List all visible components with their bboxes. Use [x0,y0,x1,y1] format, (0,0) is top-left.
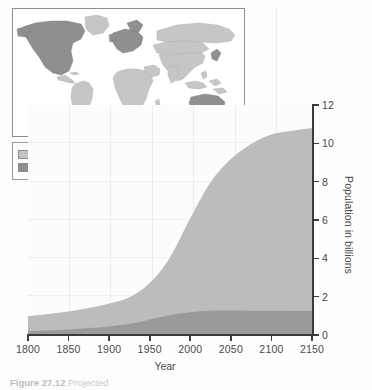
x-tick-mark [311,336,313,341]
x-tick-label: 1900 [97,343,121,355]
x-tick-label: 2050 [219,343,243,355]
y-tick-label: 8 [322,176,328,188]
y-tick-label: 12 [322,99,334,111]
x-tick-mark [108,336,110,341]
x-tick-mark [230,336,232,341]
x-tick-label: 2100 [259,343,283,355]
x-tick-label: 1850 [56,343,80,355]
figure-caption-text: Projected [68,377,108,388]
y-tick-mark [313,258,319,260]
y-tick-mark [313,104,319,106]
figure-caption: Figure 27.12 Projected [10,377,310,388]
y-tick-mark [313,296,319,298]
figure-number: Figure 27.12 [10,377,65,388]
y-tick-mark [313,219,319,221]
x-tick-label: 1800 [16,343,40,355]
x-tick-label: 2150 [300,343,324,355]
y-tick-label: 10 [322,137,334,149]
y-tick-mark [313,181,319,183]
x-tick-mark [189,336,191,341]
y-tick-mark [313,334,319,336]
y-tick-label: 2 [322,291,328,303]
x-tick-label: 2000 [178,343,202,355]
x-tick-label: 1950 [138,343,162,355]
x-tick-mark [149,336,151,341]
x-axis-title: Year [0,360,330,372]
population-projection-figure: Less-developed countries More-developed … [0,0,372,390]
y-axis-title: Population in billions [343,176,355,274]
area-less-developed [28,128,312,335]
y-tick-label: 4 [322,252,328,264]
y-tick-label: 0 [322,329,328,341]
stacked-area-series [28,105,312,335]
x-tick-mark [68,336,70,341]
x-tick-mark [27,336,29,341]
y-tick-label: 6 [322,214,328,226]
chart-plot-area [28,105,312,335]
x-tick-mark [271,336,273,341]
y-tick-mark [313,143,319,145]
